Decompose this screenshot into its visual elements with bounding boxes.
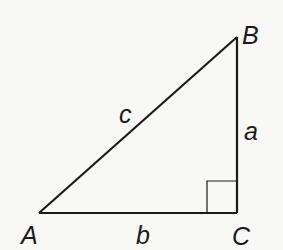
vertex-label-c: C: [232, 222, 251, 250]
side-label-a: a: [244, 117, 258, 145]
side-label-c: c: [119, 100, 132, 128]
vertex-label-b: B: [242, 21, 259, 49]
vertex-label-a: A: [19, 221, 38, 249]
side-label-b: b: [136, 221, 150, 249]
diagram-canvas: B c a A b C: [0, 0, 283, 250]
right-angle-marker: [207, 181, 237, 213]
right-triangle-diagram: B c a A b C: [0, 0, 283, 250]
